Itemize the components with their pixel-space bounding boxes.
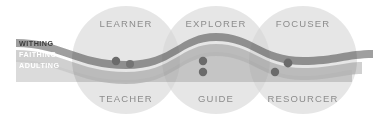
dot-marker xyxy=(199,57,207,65)
band-label-faithing: FAITHING xyxy=(19,51,57,58)
dot-marker xyxy=(284,59,293,68)
dot-marker xyxy=(126,60,134,68)
dot-marker xyxy=(199,68,207,76)
dot-marker xyxy=(112,57,120,65)
band-label-withing: WITHING xyxy=(19,40,54,47)
dot-marker xyxy=(271,68,279,76)
band-label-adulting: ADULTING xyxy=(19,62,60,69)
circle-focuser-resourcer[interactable] xyxy=(249,6,357,114)
diagram-canvas: WITHING FAITHING ADULTING LEARNER TEACHE… xyxy=(0,0,384,121)
